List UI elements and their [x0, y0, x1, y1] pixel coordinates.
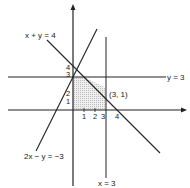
graph: 1 2 3 4 1 2 3 4 x + y = 4 y = 3 x = 3 2x…: [0, 0, 190, 188]
x-tick-label-2: 2: [93, 112, 97, 121]
point-label-3-1: (3, 1): [109, 90, 128, 99]
line-x-plus-y-equals-4: [47, 40, 160, 153]
label-x-equals-3: x = 3: [98, 179, 116, 188]
y-tick-label-1: 1: [66, 97, 70, 106]
x-tick-label-1: 1: [82, 112, 86, 121]
x-tick-label-4: 4: [115, 112, 119, 121]
diagram-canvas: 1 2 3 4 1 2 3 4 x + y = 4 y = 3 x = 3 2x…: [0, 0, 190, 188]
label-x-plus-y-equals-4: x + y = 4: [25, 31, 56, 40]
label-y-equals-3: y = 3: [167, 73, 185, 82]
label-2x-minus-y-equals-neg3: 2x − y = −3: [24, 152, 64, 161]
y-tick-label-2: 2: [66, 89, 70, 98]
x-tick-label-3: 3: [101, 112, 105, 121]
y-axis-arrow-icon: [71, 4, 76, 10]
y-tick-label-4: 4: [66, 63, 70, 72]
x-axis-arrow-icon: [181, 108, 187, 113]
